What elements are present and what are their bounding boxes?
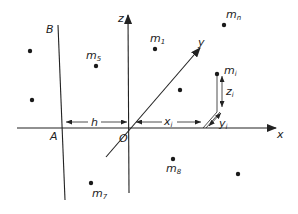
- z-axis-label: z: [117, 12, 124, 25]
- point-a-label: A: [49, 130, 58, 143]
- mass-m5: m5: [86, 49, 102, 68]
- line-ab: [58, 25, 65, 200]
- y-axis-label: y: [197, 36, 205, 49]
- svg-text:m8: m8: [166, 162, 182, 176]
- mass-m8: m8: [166, 157, 182, 176]
- svg-text:m7: m7: [92, 187, 108, 201]
- svg-text:m1: m1: [150, 32, 165, 46]
- svg-text:m5: m5: [86, 49, 102, 63]
- z-axis: [128, 15, 129, 193]
- yi-label: yi: [218, 117, 228, 131]
- zi-label: zi: [225, 85, 234, 99]
- mass-m1: m1: [150, 32, 165, 51]
- coordinate-diagram: x z y B A O h xi zi yi: [0, 0, 298, 214]
- svg-text:mn: mn: [226, 8, 241, 22]
- mass-mi: mi: [215, 64, 237, 78]
- point-b-label: B: [46, 23, 54, 36]
- origin-label: O: [119, 132, 128, 145]
- mi-projection: [203, 74, 220, 128]
- svg-text:mi: mi: [224, 64, 237, 78]
- mass-m7: m7: [89, 181, 108, 201]
- mass-mn: mn: [222, 8, 241, 27]
- x-axis-label: x: [276, 128, 284, 141]
- xi-label: xi: [163, 115, 173, 129]
- h-label: h: [91, 116, 98, 129]
